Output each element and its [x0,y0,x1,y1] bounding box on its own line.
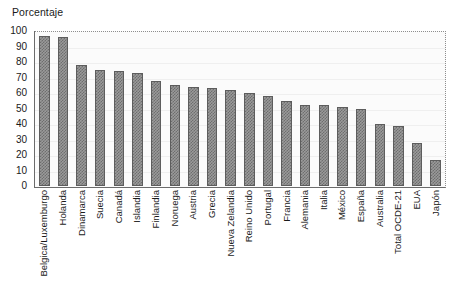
bar-series [35,31,445,186]
x-axis-tick-label: Austria [188,190,198,220]
bar [263,96,273,186]
x-label-slot: Reino Unido [240,190,259,290]
bar [337,107,347,186]
x-label-slot: Francia [277,190,296,290]
x-axis-tick-label: Dinamarca [77,190,87,236]
x-label-slot: Portugal [259,190,278,290]
x-label-slot: Canadá [110,190,129,290]
y-axis-tick-label: 10 [16,166,27,176]
bar-slot [356,31,366,186]
bar [319,105,329,186]
bar [207,88,217,186]
y-axis-tick-label: 40 [16,119,27,129]
x-axis-tick-label: Canadá [114,190,124,223]
bar-slot [76,31,86,186]
bar [114,71,124,186]
x-axis-tick-labels: Belgica/LuxemburgoHolandaDinamarcaSuecia… [35,190,445,290]
x-axis-tick-label: México [337,190,347,220]
bar-slot [375,31,385,186]
x-axis-tick-label: Belgica/Luxemburgo [39,190,49,277]
bar-chart: Porcentaje 1009080706050403020100 Belgic… [0,0,455,294]
x-axis-tick-label: España [356,190,366,222]
y-axis-tick-label: 80 [16,57,27,67]
bar-slot [132,31,142,186]
x-label-slot: Belgica/Luxemburgo [35,190,54,290]
bar [132,73,142,186]
x-axis-tick-label: Japón [431,190,441,216]
bar [300,105,310,186]
bar [430,160,440,186]
bar [412,143,422,186]
y-axis-tick-label: 60 [16,88,27,98]
x-label-slot: Alemania [296,190,315,290]
x-label-slot: Austria [184,190,203,290]
bar-slot [430,31,440,186]
x-label-slot: Nueva Zelandia [221,190,240,290]
chart-axis-title: Porcentaje [12,6,63,18]
y-axis-tick-label: 0 [21,181,27,191]
x-axis-tick-label: Alemania [300,190,310,230]
x-label-slot: Japón [426,190,445,290]
bar-slot [114,31,124,186]
bar-slot [39,31,49,186]
bar-slot [170,31,180,186]
x-axis-tick-label: Nueva Zelandia [226,190,236,257]
bar [151,81,161,186]
x-axis-tick-label: Italia [319,190,329,210]
bar [356,109,366,187]
x-axis-tick-label: Islandia [132,190,142,223]
bar [170,85,180,186]
y-axis-tick-label: 70 [16,73,27,83]
x-axis-tick-label: Suecia [95,190,105,219]
bar-slot [393,31,403,186]
x-label-slot: Grecia [203,190,222,290]
bar-slot [300,31,310,186]
bar [188,87,198,186]
bar [95,70,105,186]
bar-slot [263,31,273,186]
bar [393,126,403,186]
y-axis-tick-label: 20 [16,150,27,160]
bar [375,124,385,186]
bar-slot [281,31,291,186]
x-label-slot: México [333,190,352,290]
y-axis-tick-labels: 1009080706050403020100 [0,31,30,186]
bar-slot [207,31,217,186]
x-label-slot: Total OCDE-21 [389,190,408,290]
y-axis-tick-label: 90 [16,42,27,52]
x-axis-tick-label: Portugal [263,190,273,225]
bar-slot [58,31,68,186]
x-label-slot: Suecia [91,190,110,290]
bar-slot [337,31,347,186]
bar [58,37,68,186]
x-axis-tick-label: Australia [375,190,385,227]
bar [281,101,291,186]
y-axis-tick-label: 50 [16,104,27,114]
x-axis-tick-label: Holanda [58,190,68,225]
bar-slot [319,31,329,186]
x-axis-tick-label: Total OCDE-21 [393,190,403,254]
x-label-slot: España [352,190,371,290]
x-label-slot: Noruega [165,190,184,290]
x-label-slot: Islandia [128,190,147,290]
bar [225,90,235,186]
x-label-slot: EUA [408,190,427,290]
bar-slot [95,31,105,186]
x-axis-tick-label: Noruega [170,190,180,226]
x-label-slot: Italia [315,190,334,290]
x-label-slot: Holanda [54,190,73,290]
bar-slot [151,31,161,186]
bar-slot [188,31,198,186]
y-axis-tick-label: 100 [10,26,27,36]
x-label-slot: Finlandia [147,190,166,290]
bar-slot [412,31,422,186]
bar-slot [225,31,235,186]
x-axis-tick-label: Finlandia [151,190,161,229]
x-axis-tick-label: Francia [282,190,292,222]
y-axis-tick-label: 30 [16,135,27,145]
x-axis-tick-label: Grecia [207,190,217,218]
x-axis-tick-label: EUA [412,190,422,210]
x-label-slot: Dinamarca [72,190,91,290]
x-label-slot: Australia [370,190,389,290]
bar [244,93,254,186]
